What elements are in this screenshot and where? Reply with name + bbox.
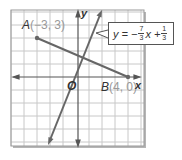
- point-b: [126, 75, 130, 79]
- fraction-7-3: 7 3: [138, 25, 144, 42]
- eq-lhs: y = −: [113, 28, 137, 40]
- point-a: [35, 36, 39, 40]
- label-point-a: A(−3, 3): [22, 19, 65, 31]
- label-point-b: B(4, 0): [101, 81, 137, 93]
- y-axis-label: y: [81, 8, 87, 19]
- origin-label: O: [67, 80, 76, 92]
- eq-mid: x +: [145, 28, 160, 40]
- x-axis-label: x: [135, 80, 141, 91]
- fraction-1-3: 1 3: [161, 25, 167, 42]
- equation-label: y = − 7 3 x + 1 3: [113, 23, 168, 44]
